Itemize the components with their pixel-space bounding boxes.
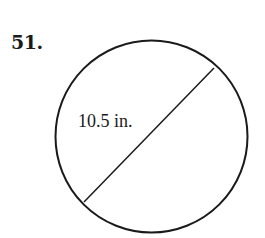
circle-outline [56, 41, 248, 233]
circle-diagram: 10.5 in. [0, 0, 265, 238]
diameter-label: 10.5 in. [78, 111, 133, 131]
